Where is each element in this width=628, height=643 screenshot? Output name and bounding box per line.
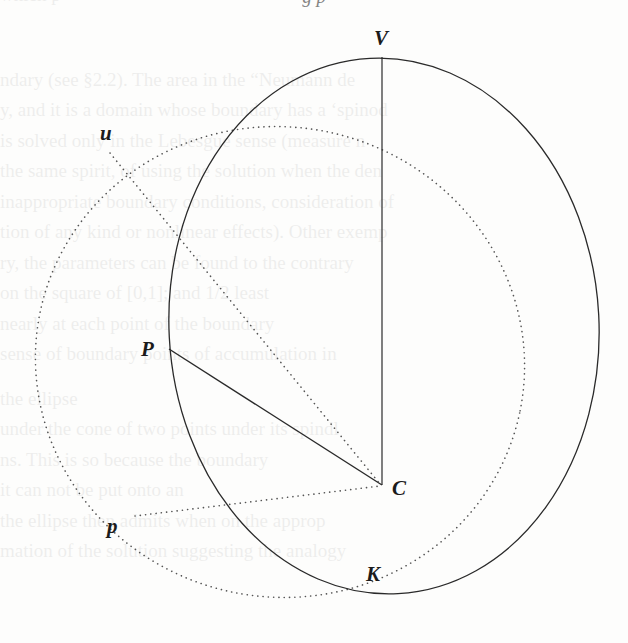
segment-p-C (135, 486, 380, 516)
label-u: u (100, 123, 112, 144)
label-C: C (392, 478, 406, 499)
dotted-ellipse (0, 81, 569, 643)
segment-u-C (110, 153, 380, 484)
diagram (0, 0, 628, 643)
solid-ellipse (155, 47, 612, 605)
label-V: V (374, 28, 388, 49)
segment-P-C (169, 349, 382, 485)
label-p: p (107, 516, 118, 537)
label-P: P (141, 339, 154, 360)
label-K: K (366, 564, 380, 585)
